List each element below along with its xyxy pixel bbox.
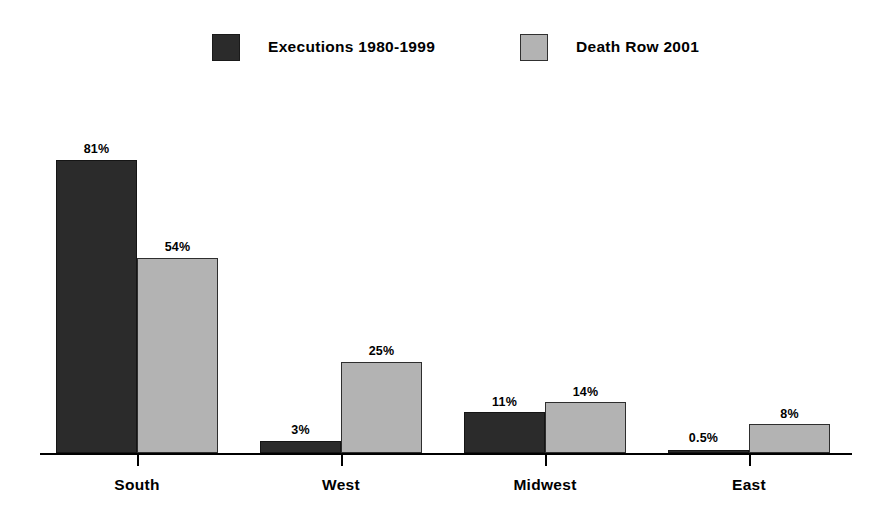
bar-value-executions-south: 81% — [56, 143, 137, 156]
x-axis-tick-south — [137, 455, 139, 466]
x-axis-tick-midwest — [545, 455, 547, 466]
bar-chart: Executions 1980-1999 Death Row 2001 81% … — [0, 0, 893, 524]
bar-value-executions-midwest: 11% — [464, 396, 545, 409]
x-axis-tick-west — [341, 455, 343, 466]
bar-value-executions-west: 3% — [260, 424, 341, 437]
bar-death-row-midwest[interactable] — [545, 402, 626, 453]
plot-area: 81% 54% 3% 25% 11% 14% 0.5% 8% South Wes… — [0, 0, 893, 524]
x-axis-tick-east — [749, 455, 751, 466]
x-axis-line — [40, 453, 852, 455]
bar-value-executions-east: 0.5% — [663, 432, 744, 445]
bar-executions-south[interactable] — [56, 160, 137, 453]
x-axis-label-south: South — [87, 477, 187, 493]
bar-value-death-row-midwest: 14% — [545, 386, 626, 399]
bar-death-row-east[interactable] — [749, 424, 830, 453]
x-axis-label-east: East — [699, 477, 799, 493]
x-axis-label-midwest: Midwest — [495, 477, 595, 493]
bar-death-row-west[interactable] — [341, 362, 422, 453]
bar-death-row-south[interactable] — [137, 258, 218, 453]
bar-value-death-row-west: 25% — [341, 345, 422, 358]
x-axis-label-west: West — [291, 477, 391, 493]
bar-executions-east[interactable] — [668, 450, 749, 453]
bar-value-death-row-south: 54% — [137, 241, 218, 254]
bar-value-death-row-east: 8% — [749, 408, 830, 421]
bar-executions-west[interactable] — [260, 441, 341, 453]
bar-executions-midwest[interactable] — [464, 412, 545, 453]
